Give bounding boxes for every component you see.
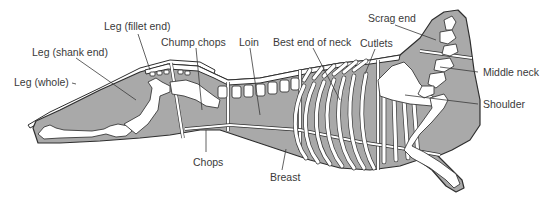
label-chump-chops: Chump chops [161, 36, 226, 48]
leader-leg-whole [72, 83, 76, 84]
label-leg-whole: Leg (whole) [14, 76, 69, 88]
label-scrag-end: Scrag end [368, 12, 416, 24]
label-breast: Breast [270, 171, 300, 183]
label-leg-shank-end: Leg (shank end) [32, 46, 108, 58]
label-best-end-of-neck: Best end of neck [273, 36, 352, 48]
label-loin: Loin [239, 36, 259, 48]
label-cutlets: Cutlets [360, 37, 393, 49]
label-shoulder: Shoulder [483, 98, 526, 110]
lamb-cuts-diagram: Leg (fillet end) Leg (shank end) Leg (wh… [0, 0, 549, 202]
label-middle-neck: Middle neck [483, 66, 540, 78]
leader-leg-fillet-end [138, 34, 150, 70]
label-leg-fillet-end: Leg (fillet end) [104, 20, 171, 32]
leader-breast [282, 149, 286, 170]
label-chops: Chops [193, 156, 223, 168]
